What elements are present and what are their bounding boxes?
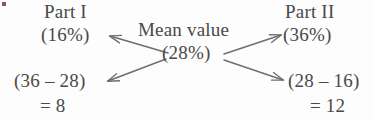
arrow-center-to-left-result [108,59,166,81]
part-two-percentage: (36%) [283,25,331,44]
alligation-diagram: Part I (16%) Part II (36%) Mean value (2… [0,0,374,119]
arrow-center-to-part2 [224,35,281,54]
right-ratio-expression: (28 – 16) [288,71,359,90]
mean-value-title: Mean value [138,20,229,39]
left-ratio-expression: (36 – 28) [14,71,85,90]
scan-artifact-speck [2,2,6,6]
left-ratio-result: = 8 [40,96,66,115]
arrow-center-to-right-result [224,60,283,80]
part-two-title: Part II [285,2,334,21]
part-one-title: Part I [44,2,87,21]
right-ratio-result: = 12 [310,96,345,115]
part-one-percentage: (16%) [41,25,89,44]
mean-value-percentage: (28%) [162,43,210,62]
